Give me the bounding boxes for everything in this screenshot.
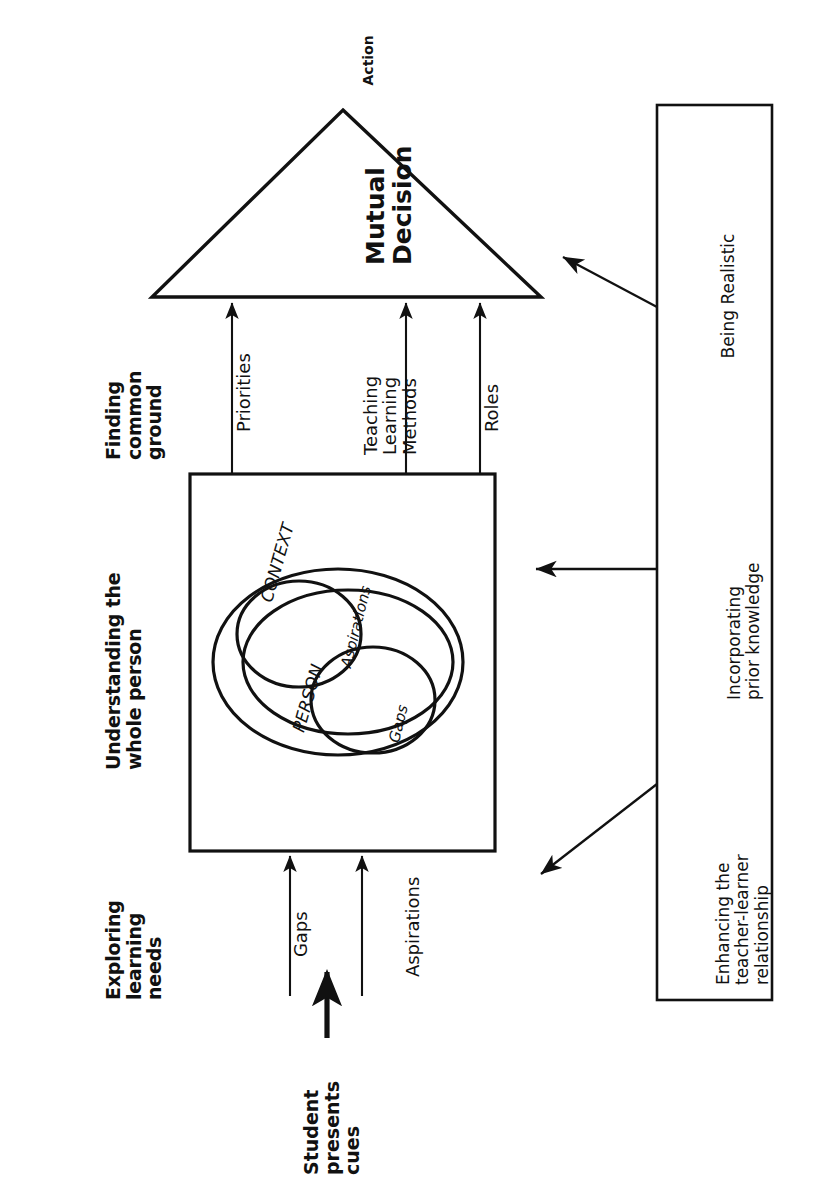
process-item-realistic: Being Realistic: [700, 234, 758, 380]
output-label-methods-text: Teaching Learning Methods: [361, 376, 419, 455]
process-item-relationship-text: Enhancing the teacher-learner relationsh…: [714, 854, 772, 985]
output-label-roles-text: Roles: [481, 384, 502, 432]
arrow-process-to-decision: [563, 257, 657, 307]
stage-header-finding: Finding common ground: [62, 371, 206, 460]
aspirations-label-text: Aspirations: [337, 584, 375, 670]
diagram-canvas: Exploring learning needs Understanding t…: [0, 0, 813, 1192]
output-label-priorities: Priorities: [215, 353, 273, 455]
input-label-gaps: Gaps: [272, 911, 330, 980]
action-label-text: Action: [360, 35, 376, 85]
output-label-methods: Teaching Learning Methods: [322, 376, 458, 455]
process-item-prior-knowledge: Incorporating prior knowledge: [686, 563, 802, 700]
context-label-text: CONTEXT: [257, 521, 299, 604]
output-label-roles: Roles: [463, 384, 521, 455]
action-label: Action: [346, 35, 391, 105]
arrow-process-to-cues: [541, 784, 657, 874]
stage-header-exploring: Exploring learning needs: [62, 900, 206, 1000]
mutual-decision-title: Mutual Decision: [310, 145, 469, 265]
student-presents-cues-text: Student presents cues: [301, 1081, 363, 1175]
process-item-relationship: Enhancing the teacher-learner relationsh…: [675, 854, 811, 985]
mutual-decision-title-text: Mutual Decision: [363, 145, 416, 265]
stage-header-understanding-label: Understanding the whole person: [103, 572, 144, 770]
student-presents-cues: Student presents cues: [260, 1081, 404, 1175]
gaps-label-text: Gaps: [385, 703, 412, 744]
input-label-aspirations-text: Aspirations: [402, 877, 423, 977]
input-label-aspirations: Aspirations: [384, 877, 442, 1000]
stage-header-understanding: Understanding the whole person: [62, 572, 185, 770]
process-item-realistic-text: Being Realistic: [718, 234, 738, 359]
process-item-prior-knowledge-text: Incorporating prior knowledge: [725, 563, 764, 700]
input-label-gaps-text: Gaps: [290, 911, 311, 957]
stage-header-exploring-label: Exploring learning needs: [103, 900, 165, 1000]
stage-header-finding-label: Finding common ground: [103, 371, 165, 460]
output-label-priorities-text: Priorities: [233, 353, 254, 432]
